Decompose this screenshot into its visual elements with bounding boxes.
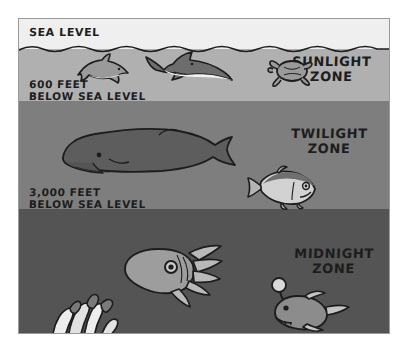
sea-level-label: SEA LEVEL — [29, 27, 100, 38]
depth-marker-3000-feet: 3,000 FEET BELOW SEA LEVEL — [29, 187, 147, 209]
squid-illustration — [119, 235, 225, 321]
sperm-whale-illustration — [55, 115, 245, 183]
zone-label-twilight: TWILIGHT ZONE — [290, 127, 367, 156]
depth-3000-line-2: BELOW SEA LEVEL — [29, 199, 146, 210]
shark-illustration — [144, 49, 234, 85]
zone-twilight-line-1: TWILIGHT — [291, 127, 368, 142]
zone-midnight-line-2: ZONE — [293, 262, 373, 277]
dolphin-illustration — [75, 53, 131, 85]
anglerfish-illustration — [265, 277, 355, 334]
zone-midnight-line-1: MIDNIGHT — [294, 247, 374, 262]
zone-twilight-line-2: ZONE — [290, 142, 367, 157]
ocean-zones-diagram: SEA LEVEL 600 FEET BELOW SEA LEVEL 3,000… — [0, 0, 409, 354]
hatchetfish-illustration — [247, 164, 323, 210]
tube-worms-illustration — [43, 279, 123, 334]
sea-turtle-illustration — [267, 55, 315, 89]
zone-label-midnight: MIDNIGHT ZONE — [293, 247, 374, 276]
depth-3000-line-1: 3,000 FEET — [29, 187, 146, 198]
depth-600-line-2: BELOW SEA LEVEL — [29, 91, 146, 102]
diagram-frame: SEA LEVEL 600 FEET BELOW SEA LEVEL 3,000… — [18, 18, 390, 334]
